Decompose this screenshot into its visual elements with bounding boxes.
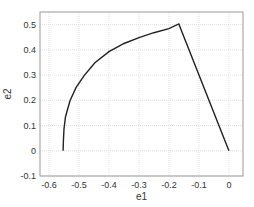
x-tick-label: -0.3 <box>131 180 147 190</box>
x-tick-label: 0 <box>226 180 231 190</box>
x-tick-label: -0.4 <box>101 180 117 190</box>
y-axis-label: e2 <box>2 88 13 100</box>
y-tick-label: 0.2 <box>23 95 36 105</box>
x-axis-ticks: -0.6-0.5-0.4-0.3-0.2-0.10 <box>41 180 231 190</box>
line-chart: -0.6-0.5-0.4-0.3-0.2-0.10 -0.100.10.20.3… <box>0 0 254 207</box>
x-tick-label: -0.5 <box>71 180 87 190</box>
x-tick-label: -0.2 <box>161 180 177 190</box>
x-tick-label: -0.6 <box>41 180 57 190</box>
y-tick-label: -0.1 <box>20 171 36 181</box>
y-axis-ticks: -0.100.10.20.30.40.5 <box>20 20 36 181</box>
y-tick-label: 0.1 <box>23 121 36 131</box>
data-line <box>63 24 229 151</box>
y-tick-label: 0.4 <box>23 45 36 55</box>
y-tick-label: 0 <box>31 146 36 156</box>
y-tick-label: 0.3 <box>23 70 36 80</box>
x-tick-label: -0.1 <box>191 180 207 190</box>
y-tick-label: 0.5 <box>23 20 36 30</box>
x-axis-label: e1 <box>136 191 148 202</box>
